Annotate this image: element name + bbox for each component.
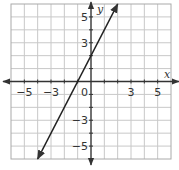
y-tick-label: 5 bbox=[81, 11, 88, 24]
x-axis-label: x bbox=[164, 68, 171, 81]
x-tick-label: 5 bbox=[154, 86, 161, 99]
x-tick-label: −3 bbox=[43, 86, 59, 99]
coordinate-plane: −5−33553−3−50xy bbox=[0, 0, 179, 170]
tick-labels: −5−33553−3−50xy bbox=[16, 3, 171, 153]
y-tick-label: −3 bbox=[72, 114, 88, 127]
y-axis-label: y bbox=[96, 3, 104, 16]
y-tick-label: 3 bbox=[81, 37, 88, 50]
axes bbox=[3, 2, 179, 165]
x-tick-label: −5 bbox=[16, 86, 32, 99]
y-tick-label: −5 bbox=[72, 140, 88, 153]
origin-label: 0 bbox=[81, 86, 88, 99]
x-tick-label: 3 bbox=[128, 86, 135, 99]
